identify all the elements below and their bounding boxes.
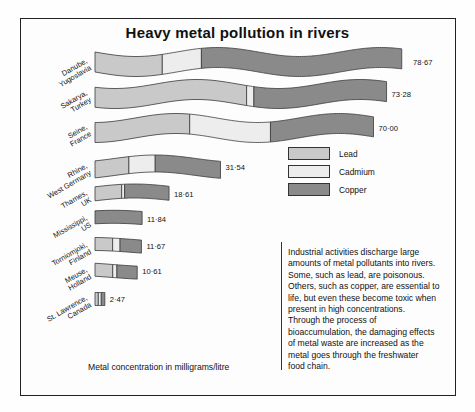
description-paragraph: Industrial activities discharge largeamo… xyxy=(288,247,460,372)
paragraph-line: Industrial activities discharge large xyxy=(288,247,460,258)
bar-segment-cadmium xyxy=(113,265,117,278)
bar-row xyxy=(95,184,169,201)
legend-swatch-copper xyxy=(288,183,330,196)
legend-item-copper: Copper xyxy=(288,182,375,197)
infographic-canvas: Heavy metal pollution in rivers Danube,Y… xyxy=(0,0,475,412)
paragraph-line: Others, such as copper, are essential to xyxy=(288,281,460,292)
paragraph-line: life, but even these become toxic when xyxy=(288,293,460,304)
legend-label-copper: Copper xyxy=(339,185,366,195)
value-label: 18·61 xyxy=(174,190,193,199)
bar-segment-lead xyxy=(95,157,129,178)
value-label: 73·28 xyxy=(392,90,411,99)
bar-segment-cadmium xyxy=(98,293,101,306)
bar-segment-cadmium xyxy=(129,155,155,174)
bar-segment-copper xyxy=(155,155,220,178)
bar-row xyxy=(95,80,387,109)
paragraph-line: food chain. xyxy=(288,361,460,372)
value-label: 11·84 xyxy=(147,215,166,224)
legend-swatch-lead xyxy=(288,147,330,160)
bar-segment-copper xyxy=(254,80,387,109)
paragraph-line: present in high concentrations. xyxy=(288,304,460,315)
bar-segment-lead xyxy=(95,293,98,306)
legend: Lead Cadmium Copper xyxy=(288,146,375,200)
bar-segment-copper xyxy=(117,265,137,279)
vertical-divider xyxy=(281,242,282,370)
bar-row xyxy=(95,155,220,178)
bar-row xyxy=(95,114,374,143)
value-label: 78·67 xyxy=(413,58,432,67)
value-label: 10·61 xyxy=(142,267,161,276)
bar-segment-copper xyxy=(201,48,401,77)
bar-segment-copper xyxy=(120,239,141,254)
bar-segment-lead xyxy=(95,238,113,252)
bar-segment-copper xyxy=(125,184,169,200)
bar-segment-lead xyxy=(95,80,247,109)
bar-segment-cadmium xyxy=(162,48,201,74)
legend-swatch-cadmium xyxy=(288,165,330,178)
paragraph-line: amounts of metal pollutants into rivers. xyxy=(288,258,460,269)
value-label: 70·00 xyxy=(379,124,398,133)
bar-segment-copper xyxy=(95,210,142,224)
bar-row xyxy=(95,238,141,254)
legend-item-lead: Lead xyxy=(288,146,375,161)
paragraph-line: Through the process of xyxy=(288,315,460,326)
bar-segment-copper xyxy=(270,114,373,142)
value-label: 2·47 xyxy=(110,295,125,304)
paragraph-line: metal goes through the freshwater xyxy=(288,350,460,361)
bar-row xyxy=(95,48,402,77)
bar-row xyxy=(95,293,105,306)
bar-segment-cadmium xyxy=(247,86,254,107)
paragraph-line: bioaccumulation, the damaging effects xyxy=(288,327,460,338)
axis-caption: Metal concentration in milligrams/litre xyxy=(88,362,229,372)
value-label: 31·54 xyxy=(225,163,244,172)
paragraph-line: of metal waste are increased as the xyxy=(288,338,460,349)
bar-segment-cadmium xyxy=(113,238,120,251)
paragraph-line: Some, such as lead, are poisonous. xyxy=(288,270,460,281)
bar-segment-lead xyxy=(95,114,190,143)
legend-label-lead: Lead xyxy=(339,149,358,159)
bar-segment-lead xyxy=(95,263,113,277)
bar-row xyxy=(95,263,137,279)
bar-segment-cadmium xyxy=(122,184,125,198)
bar-row xyxy=(95,210,142,224)
value-label: 11·67 xyxy=(146,242,165,251)
legend-item-cadmium: Cadmium xyxy=(288,164,375,179)
bar-segment-cadmium xyxy=(190,114,271,142)
legend-label-cadmium: Cadmium xyxy=(339,167,375,177)
bar-segment-copper xyxy=(101,293,105,306)
bar-segment-lead xyxy=(95,52,162,77)
bar-segment-lead xyxy=(95,184,122,200)
